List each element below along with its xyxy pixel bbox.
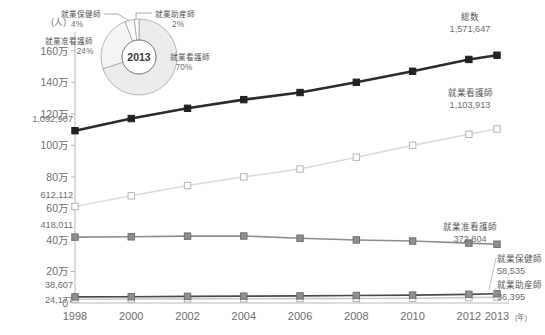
data-point [72, 128, 78, 134]
y-tick-label: 20万 [46, 265, 68, 277]
x-tick-label: 2013 [485, 310, 509, 322]
data-point [297, 235, 303, 241]
x-axis: 199820002002200420062008201020122013(年) [63, 303, 528, 322]
end-value-label: 1,571,647 [450, 24, 491, 34]
data-point [184, 105, 190, 111]
x-tick-label: 2008 [344, 310, 368, 322]
data-point [494, 52, 500, 58]
x-tick-label: 2002 [175, 310, 199, 322]
y-tick-label: 40万 [46, 234, 68, 246]
end-value-label: 372,804 [453, 234, 486, 244]
data-point [353, 79, 359, 85]
x-tick-label: 2000 [119, 310, 143, 322]
series-line [75, 294, 497, 297]
data-point [409, 68, 415, 74]
pie-slice-label: 就業助産師 [155, 9, 195, 19]
data-point [241, 174, 247, 180]
series-name-label: 就業看護師 [448, 87, 493, 98]
series-line [75, 297, 497, 299]
end-value-label: 1,103,913 [450, 100, 491, 110]
data-point [466, 131, 472, 137]
data-point [128, 193, 134, 199]
series-name-label: 就業助産師 [497, 279, 542, 290]
data-point [128, 234, 134, 240]
data-point [128, 115, 134, 121]
pie-slice-label: 就業保健師 [61, 9, 101, 19]
data-point [297, 89, 303, 95]
end-value-label: 36,395 [497, 292, 525, 302]
pie-slice-label: 就業看護師 [170, 52, 210, 62]
y-axis: 020万40万60万80万100万120万140万160万(人) [40, 17, 75, 309]
start-value-label: 612,112 [40, 190, 73, 200]
data-point [184, 182, 190, 188]
y-tick-label: 100万 [40, 139, 68, 151]
x-tick-label: 2010 [400, 310, 424, 322]
data-point [184, 293, 190, 299]
inset-donut-2013: 2013就業看護師70%就業准看護師24%就業保健師4%就業助産師2% [45, 9, 210, 95]
data-point [72, 203, 78, 209]
pie-slice-label: 就業准看護師 [45, 36, 93, 46]
x-tick-label: 2006 [288, 310, 312, 322]
data-point [297, 293, 303, 299]
data-point [353, 154, 359, 160]
series-line [75, 129, 497, 207]
x-tick-label: 1998 [63, 310, 87, 322]
start-value-label: 1,092,907 [32, 114, 73, 124]
end-value-label: 58,535 [497, 266, 525, 276]
data-point [353, 292, 359, 298]
x-axis-unit: (年) [515, 312, 527, 322]
data-point [184, 233, 190, 239]
data-point [297, 166, 303, 172]
pie-slice-pct: 4% [71, 20, 83, 29]
start-value-label: 418,011 [40, 220, 73, 230]
x-tick-label: 2004 [232, 310, 256, 322]
y-tick-label: 80万 [46, 171, 68, 183]
series-name-label: 就業保健師 [497, 253, 542, 264]
y-tick-label: 60万 [46, 202, 68, 214]
data-point [353, 237, 359, 243]
series-name-label: 就業准看護師 [443, 221, 497, 232]
leader-line [489, 258, 496, 290]
pie-leader-line [104, 14, 129, 21]
data-point [241, 233, 247, 239]
data-point [409, 292, 415, 298]
y-tick-label: 140万 [40, 76, 68, 88]
pie-slice-pct: 2% [172, 20, 184, 29]
series-name-label: 総数 [461, 11, 479, 22]
series-1 [72, 126, 500, 210]
chart-svg: 020万40万60万80万100万120万140万160万(人)19982000… [0, 0, 545, 335]
x-tick-label: 2012 [457, 310, 481, 322]
series-2 [72, 233, 500, 248]
data-point [241, 96, 247, 102]
data-point [409, 238, 415, 244]
start-value-label: 24,177 [45, 295, 73, 305]
data-point [72, 234, 78, 240]
start-value-label: 38,607 [45, 280, 73, 290]
data-point [494, 241, 500, 247]
data-point [128, 293, 134, 299]
series-line [75, 236, 497, 244]
data-point [466, 56, 472, 62]
pie-slice-pct: 70% [176, 63, 192, 72]
data-point [241, 293, 247, 299]
data-point [409, 142, 415, 148]
data-point [466, 291, 472, 297]
data-point [494, 126, 500, 132]
pie-slice-pct: 24% [77, 47, 93, 56]
nurse-workforce-trend-chart: 020万40万60万80万100万120万140万160万(人)19982000… [0, 0, 545, 335]
donut-center-year: 2013 [127, 51, 151, 63]
y-tick-label: 160万 [40, 45, 68, 57]
